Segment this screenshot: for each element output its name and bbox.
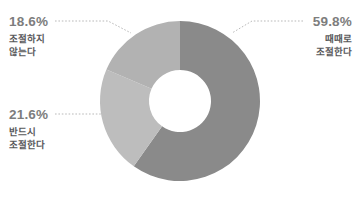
slice-name-not-adjust-line-1: 조절하지: [9, 33, 48, 46]
slice-percent-sometimes-adjust: 59.8%: [313, 13, 352, 31]
slice-name-sometimes-adjust: 때때로 조절한다: [313, 33, 352, 59]
slice-name-sometimes-adjust-line-1: 때때로: [313, 33, 352, 46]
slice-label-not-adjust: 18.6% 조절하지 않는다: [9, 13, 48, 59]
slice-name-not-adjust: 조절하지 않는다: [9, 33, 48, 59]
slice-name-sometimes-adjust-line-2: 조절한다: [313, 46, 352, 59]
slice-label-sometimes-adjust: 59.8% 때때로 조절한다: [313, 13, 352, 59]
slice-percent-must-adjust: 21.6%: [9, 106, 48, 124]
donut-chart-graphic: [0, 0, 359, 204]
slice-name-must-adjust: 반드시 조절한다: [9, 126, 48, 152]
slice-name-must-adjust-line-1: 반드시: [9, 126, 48, 139]
leader-line-not-adjust: [55, 21, 131, 33]
donut-chart: 18.6% 조절하지 않는다 21.6% 반드시 조절한다 59.8% 때때로 …: [0, 0, 359, 204]
slice-name-not-adjust-line-2: 않는다: [9, 46, 48, 59]
leader-line-sometimes-adjust: [232, 21, 303, 33]
slice-label-must-adjust: 21.6% 반드시 조절한다: [9, 106, 48, 152]
slice-name-must-adjust-line-2: 조절한다: [9, 139, 48, 152]
slice-percent-not-adjust: 18.6%: [9, 13, 48, 31]
